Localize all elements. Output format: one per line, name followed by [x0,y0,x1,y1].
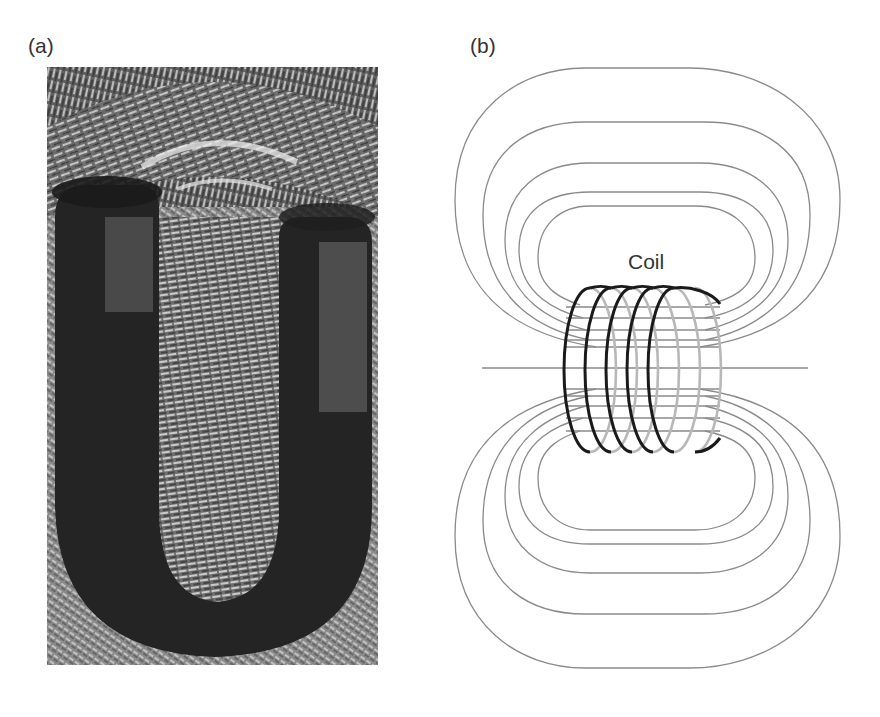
coil-field-diagram [0,0,880,717]
coil-label: Coil [628,250,664,274]
coil-front-arcs [564,287,720,453]
